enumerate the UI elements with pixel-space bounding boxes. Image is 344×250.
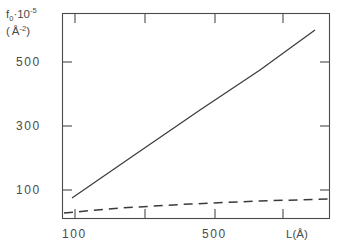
left-axis-ticks [63,62,72,190]
y-axis-title-ten: ·10 [13,8,30,20]
y-axis-title-line1: f0·10-5 [6,6,37,23]
series-solid-curve [72,30,315,198]
x-tick-label-100: 100 [62,227,87,241]
y-axis-title-exponent: -5 [30,6,37,15]
x-axis-title: L(Å) [286,228,308,240]
right-axis-ticks [320,62,329,190]
y-axis-unit-paren-close: ) [26,25,30,37]
plot-canvas: 500 300 100 100 500 L(Å) f0·10-5 (Å-2) [0,0,344,250]
bottom-axis-ticks [75,209,283,218]
y-tick-label-300: 300 [16,119,41,133]
series-dashed-curve [64,199,330,213]
y-axis-unit-paren-open: ( [6,25,10,37]
x-tick-label-500: 500 [202,227,227,241]
top-axis-ticks [75,14,283,23]
plot-frame [63,14,330,219]
y-tick-label-500: 500 [16,55,41,69]
y-axis-unit-exponent: -2 [20,24,27,33]
y-axis-title-line2: (Å-2) [6,24,30,37]
y-tick-label-100: 100 [16,183,41,197]
chart-figure: 500 300 100 100 500 L(Å) f0·10-5 (Å-2) [0,0,344,250]
